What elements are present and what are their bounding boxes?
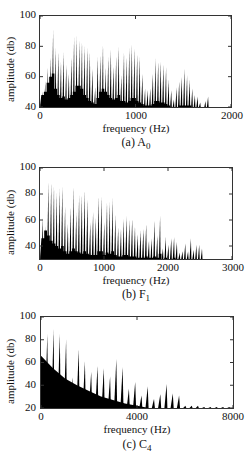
x-tick: 8000 [213,411,251,422]
y-axis-label: amplitude (db) [4,339,16,404]
x-axis-label: frequency (Hz) [77,423,197,435]
y-tick: 100 [12,310,36,321]
spectrum-bars [41,317,233,408]
caption-text: (c) C [123,437,147,451]
y-tick: 40 [12,379,36,390]
y-tick: 80 [12,333,36,344]
x-tick: 4000 [117,411,157,422]
panel-c: amplitude (db) 100 80 60 40 20 0 4000 80… [0,0,251,457]
plot-area-c [40,316,234,409]
caption-c: (c) C4 [97,437,177,455]
y-tick: 60 [12,356,36,367]
x-tick: 0 [21,411,61,422]
caption-subscript: 4 [147,443,152,453]
